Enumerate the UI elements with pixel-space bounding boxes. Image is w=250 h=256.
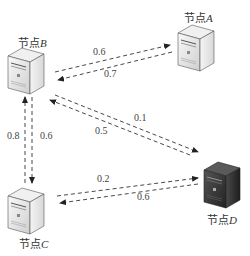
weight-c-to-d: 0.2 — [97, 173, 110, 184]
weight-d-to-c: 0.6 — [137, 191, 150, 202]
server-icon-d — [204, 162, 240, 208]
node-label-a: 节点A — [184, 9, 213, 25]
edge-d-to-b — [50, 100, 190, 155]
weight-c-to-b: 0.8 — [7, 130, 20, 141]
weight-a-to-b: 0.7 — [104, 68, 117, 79]
node-label-b: 节点B — [18, 34, 47, 50]
node-label-d: 节点D — [207, 211, 237, 227]
weight-d-to-b: 0.5 — [95, 125, 108, 136]
server-icon-b — [8, 48, 44, 94]
weight-b-to-a: 0.6 — [93, 46, 106, 57]
weight-b-to-c: 0.6 — [40, 130, 53, 141]
server-icon-a — [178, 25, 214, 71]
server-icon-c — [8, 188, 44, 234]
node-label-c: 节点C — [19, 235, 48, 251]
edge-b-to-d — [55, 95, 198, 152]
weight-b-to-d: 0.1 — [134, 112, 147, 123]
